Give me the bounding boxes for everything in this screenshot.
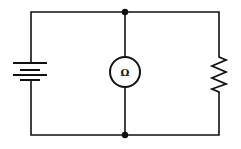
resistor-icon bbox=[212, 57, 226, 92]
junction-top bbox=[122, 9, 128, 15]
circuit-diagram: Ω bbox=[0, 0, 241, 149]
battery-icon bbox=[13, 63, 47, 80]
junction-bottom bbox=[122, 132, 128, 138]
ohmmeter-icon: Ω bbox=[110, 57, 140, 87]
meter-symbol: Ω bbox=[121, 67, 130, 78]
